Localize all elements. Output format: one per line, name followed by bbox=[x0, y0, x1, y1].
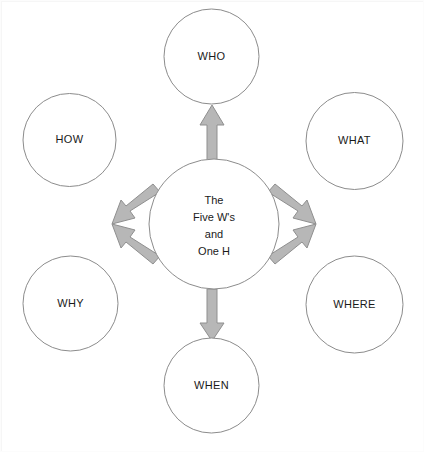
arrow-to-when bbox=[200, 289, 224, 341]
node-when[interactable]: WHEN bbox=[164, 338, 259, 433]
node-how-label: HOW bbox=[56, 133, 84, 145]
center-hub-line-3: and bbox=[205, 228, 223, 240]
center-hub[interactable]: The Five W's and One H bbox=[149, 159, 279, 289]
node-what[interactable]: WHAT bbox=[306, 93, 403, 190]
node-where-label: WHERE bbox=[333, 298, 375, 310]
arrow-up-shape bbox=[200, 105, 224, 161]
arrow-down-shape bbox=[200, 289, 224, 341]
node-who-label: WHO bbox=[198, 50, 226, 62]
node-why[interactable]: WHY bbox=[23, 256, 118, 351]
node-where[interactable]: WHERE bbox=[306, 256, 403, 353]
five-ws-one-h-diagram: WHO WHAT WHERE WHEN WHY HOW The Five W's bbox=[1, 1, 424, 452]
node-who[interactable]: WHO bbox=[164, 9, 259, 104]
center-hub-line-1: The bbox=[205, 194, 224, 206]
center-hub-line-2: Five W's bbox=[193, 211, 235, 223]
node-what-label: WHAT bbox=[338, 134, 371, 146]
center-hub-circle[interactable] bbox=[149, 159, 279, 289]
center-hub-line-4: One H bbox=[198, 245, 230, 257]
node-why-label: WHY bbox=[57, 297, 84, 309]
diagram-canvas: WHO WHAT WHERE WHEN WHY HOW The Five W's bbox=[0, 0, 424, 452]
node-when-label: WHEN bbox=[194, 379, 229, 391]
node-how[interactable]: HOW bbox=[23, 94, 116, 187]
arrow-to-who bbox=[200, 105, 224, 161]
